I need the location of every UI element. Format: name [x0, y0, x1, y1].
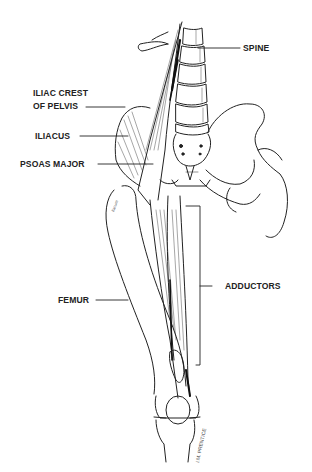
anatomy-figure: Ilacum SPINE ILIAC CREST OF PELVIS ILIAC…	[0, 0, 312, 472]
femur-bone: Ilacum	[106, 186, 186, 394]
label-spine: SPINE	[243, 43, 269, 53]
leader-lines	[80, 48, 240, 365]
rib-shape	[138, 42, 168, 51]
label-psoas-major: PSOAS MAJOR	[20, 159, 85, 169]
label-iliacus: ILIACUS	[35, 131, 70, 141]
anatomy-drawing: Ilacum	[0, 0, 312, 472]
label-femur: FEMUR	[58, 295, 89, 305]
iliacus-muscle	[115, 106, 150, 186]
spine-vertebrae	[176, 28, 209, 135]
adductors-bracket	[186, 206, 200, 365]
right-pelvis	[200, 104, 287, 238]
sacrum	[173, 134, 210, 180]
label-iliac-crest-line2: OF PELVIS	[33, 101, 78, 111]
psoas-major-muscle	[138, 22, 182, 205]
svg-text:Ilacum: Ilacum	[110, 199, 119, 212]
knee	[154, 350, 200, 462]
label-iliac-crest-line1: ILIAC CREST	[33, 88, 88, 98]
label-adductors: ADDUCTORS	[225, 281, 281, 291]
